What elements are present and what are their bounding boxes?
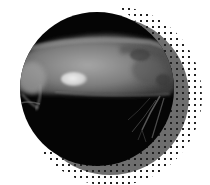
xray-illustration: Circular cropped X-ray of a guinea pig w… bbox=[0, 0, 210, 185]
bladder-stone bbox=[61, 72, 87, 86]
